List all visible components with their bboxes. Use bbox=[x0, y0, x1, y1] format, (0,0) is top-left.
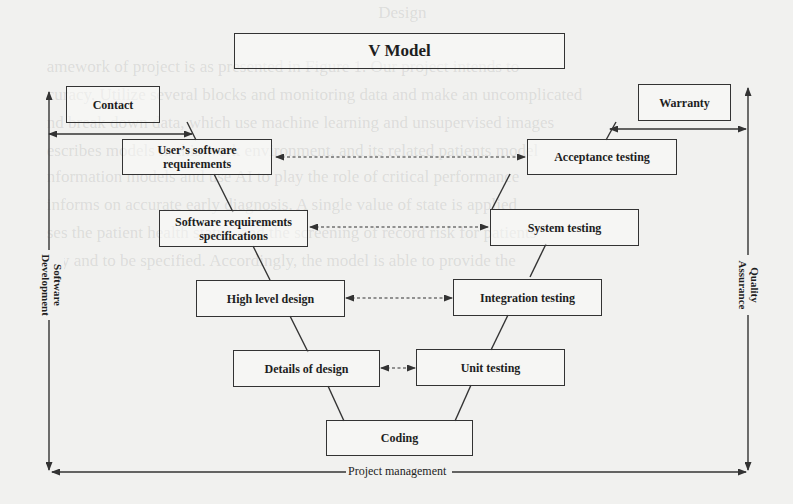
high-level-design-box: High level design bbox=[196, 280, 345, 317]
box-label: Unit testing bbox=[461, 361, 521, 375]
software-development-label: Software Development bbox=[38, 250, 64, 320]
unit-testing-box: Unit testing bbox=[416, 349, 565, 386]
box-label-line1: Software requirements bbox=[175, 215, 292, 229]
system-testing-box: System testing bbox=[490, 209, 639, 246]
contact-box: Contact bbox=[66, 86, 160, 123]
box-label-line1: User’s software bbox=[157, 143, 236, 157]
quality-assurance-label: Quality Assurance bbox=[735, 255, 761, 315]
details-of-design-box: Details of design bbox=[233, 350, 380, 387]
label-line1: Software bbox=[52, 250, 64, 320]
box-label: Acceptance testing bbox=[554, 150, 650, 164]
integration-testing-box: Integration testing bbox=[453, 279, 602, 316]
box-label: Integration testing bbox=[480, 291, 575, 305]
label-line1: Quality bbox=[749, 255, 761, 315]
box-label: High level design bbox=[227, 292, 314, 306]
coding-box: Coding bbox=[326, 420, 473, 456]
warranty-box: Warranty bbox=[638, 84, 731, 121]
box-label-line2: requirements bbox=[163, 157, 231, 171]
users-software-requirements-box: User’s software requirements bbox=[122, 139, 272, 175]
v-model-title: V Model bbox=[234, 33, 565, 69]
project-management-label: Project management bbox=[346, 464, 448, 479]
acceptance-testing-box: Acceptance testing bbox=[527, 139, 677, 175]
box-label-line2: specifications bbox=[199, 229, 268, 243]
contact-label: Contact bbox=[93, 98, 134, 112]
warranty-label: Warranty bbox=[659, 96, 710, 110]
box-label: System testing bbox=[528, 221, 602, 235]
box-label: Details of design bbox=[265, 362, 349, 376]
software-requirements-specifications-box: Software requirements specifications bbox=[159, 210, 308, 247]
label-line2: Development bbox=[40, 250, 52, 320]
coding-label: Coding bbox=[381, 431, 418, 445]
project-management-text: Project management bbox=[348, 464, 446, 478]
label-line2: Assurance bbox=[737, 255, 749, 315]
title-text: V Model bbox=[368, 44, 431, 58]
